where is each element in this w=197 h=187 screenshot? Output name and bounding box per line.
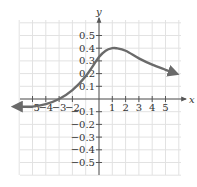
y-tick-label: 0.4 bbox=[79, 43, 95, 54]
x-tick-label: 1 bbox=[109, 102, 115, 113]
x-tick-label: 3 bbox=[136, 102, 142, 113]
axes bbox=[20, 18, 186, 175]
tick-labels: −5−4−3−2123450.50.40.30.20.1−0.1−0.2−0.3… bbox=[25, 6, 195, 168]
grid-lines bbox=[19, 20, 181, 175]
y-tick-label: −0.1 bbox=[71, 106, 95, 117]
y-tick-label: −0.4 bbox=[71, 144, 95, 155]
y-axis-label: y bbox=[95, 6, 102, 17]
y-tick-label: −0.2 bbox=[71, 119, 95, 130]
x-axis-label: x bbox=[189, 94, 195, 105]
x-tick-label: 5 bbox=[162, 102, 168, 113]
x-tick-label: 2 bbox=[122, 102, 128, 113]
y-tick-label: −0.3 bbox=[71, 132, 95, 143]
function-graph: −5−4−3−2123450.50.40.30.20.1−0.1−0.2−0.3… bbox=[0, 0, 197, 187]
y-tick-label: −0.5 bbox=[71, 157, 95, 168]
y-tick-label: 0.5 bbox=[79, 30, 95, 41]
x-tick-label: 4 bbox=[149, 102, 155, 113]
